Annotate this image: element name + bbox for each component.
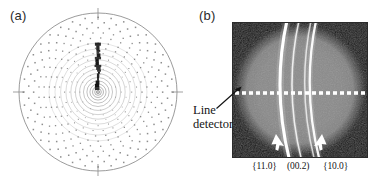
miller-label-00-2: (00.2) (287, 161, 309, 171)
miller-index-caption-row: {11.0} (00.2) {10.0} (232, 161, 368, 177)
panel-b-detector-field (232, 22, 368, 158)
line-detector-label: Line detector (193, 104, 247, 131)
panel-a-central-streak (95, 43, 102, 90)
figure-root: (a) (b) (0, 0, 385, 182)
line-detector-label-line2: detector (193, 118, 247, 132)
panel-a-canvas (10, 6, 188, 178)
panel-b-label: (b) (199, 8, 216, 23)
panel-a-diffraction-simulation (10, 6, 188, 178)
panel-a-ticks (13, 8, 183, 176)
line-detector-label-line1: Line (193, 104, 247, 118)
panel-b-canvas (232, 22, 368, 158)
panel-b-detector-image (232, 22, 368, 158)
miller-label-10-0: {10.0} (323, 161, 348, 171)
miller-label-11-0: {11.0} (252, 161, 277, 171)
panel-a-outline (19, 13, 177, 171)
